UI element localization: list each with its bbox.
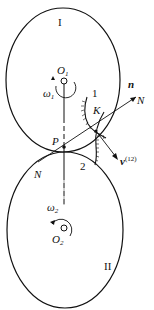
normal-arrowhead-icon	[130, 97, 136, 102]
normal-line-end-label: N	[136, 94, 145, 106]
pivot-o1-icon	[61, 78, 67, 84]
o1-label: O1	[57, 64, 68, 78]
profile-2-label: 2	[80, 160, 86, 172]
gear-contact-diagram: I II O1 ω1 O2 ω2 P K 1 2 n N N v(12)	[0, 0, 154, 310]
body-2-label: II	[104, 260, 112, 272]
normal-vector-label: n	[128, 78, 134, 90]
velocity-label: v(12)	[120, 155, 137, 167]
omega1-label: ω1	[43, 87, 54, 101]
omega2-arrowhead-icon	[50, 220, 55, 225]
profile-1-label: 1	[92, 87, 98, 99]
omega1-arrow-icon	[56, 82, 76, 98]
o2-label: O2	[52, 233, 64, 247]
omega1-arrowhead-icon	[51, 76, 55, 80]
normal-line	[38, 97, 136, 162]
pitch-point-label: P	[51, 135, 59, 147]
normal-line-start-label: N	[33, 168, 42, 180]
omega2-label: ω2	[47, 201, 59, 215]
velocity-arrowhead-icon	[112, 153, 118, 160]
pivot-o2-icon	[61, 225, 67, 231]
body-1-label: I	[58, 16, 62, 28]
contact-point-label: K	[92, 104, 101, 116]
